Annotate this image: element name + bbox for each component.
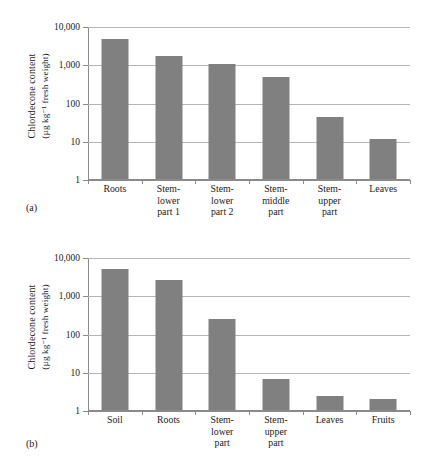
bar-slot xyxy=(195,258,249,411)
bar xyxy=(316,396,343,411)
x-axis-label: Roots xyxy=(88,183,142,218)
x-axis-label: Leaves xyxy=(303,414,357,449)
y-axis-title-b: Chlordecone content (µg kg⁻¹ fresh weigh… xyxy=(18,249,58,404)
x-axis-label: Stem- upper part xyxy=(249,414,303,449)
bar-slot xyxy=(142,258,196,411)
y-tick-label: 10,000 xyxy=(54,253,80,263)
y-tick-label: 10 xyxy=(71,368,81,378)
x-axis-label: Stem- lower part xyxy=(195,414,249,449)
chart-panel-a: Chlordecone content (µg kg⁻¹ fresh weigh… xyxy=(0,0,428,231)
y-tick-label: 1 xyxy=(75,175,80,185)
y-tick-label: 100 xyxy=(66,99,80,109)
x-tick-mark xyxy=(410,411,411,415)
y-tick-label: 100 xyxy=(66,330,80,340)
figure-chlordecone-content: Chlordecone content (µg kg⁻¹ fresh weigh… xyxy=(0,0,428,462)
bar xyxy=(209,64,236,180)
bar xyxy=(370,139,397,180)
panel-tag-a: (a) xyxy=(26,202,37,213)
x-tick-mark xyxy=(410,180,411,184)
x-axis-label: Stem- upper part xyxy=(303,183,357,218)
bar xyxy=(316,117,343,180)
x-axis-label: Roots xyxy=(142,414,196,449)
bar xyxy=(209,319,236,411)
bar xyxy=(101,269,128,411)
bar-slot xyxy=(142,27,196,180)
plot-area-b: 1101001,00010,000 xyxy=(88,258,410,411)
y-tick-label: 10 xyxy=(71,137,81,147)
y-tick-label: 1,000 xyxy=(59,60,80,70)
bar-slot xyxy=(356,27,410,180)
bar xyxy=(262,379,289,411)
bar-series-a xyxy=(88,27,410,180)
bar xyxy=(155,280,182,411)
x-axis-label: Stem- lower part 2 xyxy=(195,183,249,218)
bar-slot xyxy=(249,27,303,180)
bar-slot xyxy=(303,258,357,411)
x-axis-label: Leaves xyxy=(356,183,410,218)
y-axis-title-line2: (µg kg⁻¹ fresh weight) xyxy=(39,53,49,138)
bar-slot xyxy=(249,258,303,411)
y-axis-title-line2: (µg kg⁻¹ fresh weight) xyxy=(39,284,49,369)
y-axis-title-line1: Chlordecone content xyxy=(26,284,37,369)
bar-series-b xyxy=(88,258,410,411)
y-tick-label: 1,000 xyxy=(59,291,80,301)
bar xyxy=(155,56,182,181)
y-axis-title-a: Chlordecone content (µg kg⁻¹ fresh weigh… xyxy=(18,18,58,173)
bar xyxy=(262,77,289,180)
bar-slot xyxy=(88,27,142,180)
x-axis-label: Soil xyxy=(88,414,142,449)
x-axis-label: Stem- middle part xyxy=(249,183,303,218)
y-axis-title-line1: Chlordecone content xyxy=(26,53,37,138)
x-axis-labels-a: RootsStem- lower part 1Stem- lower part … xyxy=(88,183,410,218)
x-axis-label: Fruits xyxy=(356,414,410,449)
y-tick-label: 1 xyxy=(75,406,80,416)
bar xyxy=(101,39,128,180)
x-axis-label: Stem- lower part 1 xyxy=(142,183,196,218)
panel-tag-b: (b) xyxy=(26,438,38,449)
x-axis-line-a xyxy=(88,179,410,180)
bar-slot xyxy=(88,258,142,411)
plot-area-a: 1101001,00010,000 xyxy=(88,27,410,180)
bar-slot xyxy=(303,27,357,180)
bar-slot xyxy=(195,27,249,180)
x-axis-line-b xyxy=(88,410,410,411)
chart-panel-b: Chlordecone content (µg kg⁻¹ fresh weigh… xyxy=(0,231,428,462)
y-tick-label: 10,000 xyxy=(54,22,80,32)
bar-slot xyxy=(356,258,410,411)
x-axis-labels-b: SoilRootsStem- lower partStem- upper par… xyxy=(88,414,410,449)
